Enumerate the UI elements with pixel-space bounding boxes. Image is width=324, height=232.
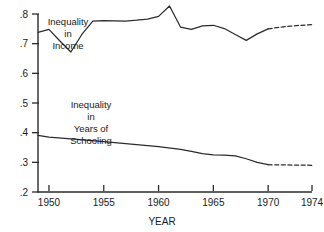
x-tick-label: 1970 bbox=[257, 197, 280, 208]
schooling-series-label: InequalityinYears ofSchooling bbox=[70, 99, 112, 146]
y-tick-label: .4 bbox=[20, 127, 29, 138]
series-label-line: Years of bbox=[74, 123, 109, 134]
x-axis-title: YEAR bbox=[148, 216, 175, 227]
series-path-projected bbox=[268, 165, 312, 166]
x-tick-label: 1974 bbox=[301, 197, 324, 208]
y-tick-label: .6 bbox=[20, 68, 29, 79]
series-label-line: Inequality bbox=[71, 99, 112, 110]
x-tick-label: 1960 bbox=[147, 197, 170, 208]
y-tick-label: .7 bbox=[20, 38, 29, 49]
x-tick-label: 1965 bbox=[202, 197, 225, 208]
y-tick-label: .3 bbox=[20, 157, 29, 168]
chart-figure: .2.3.4.5.6.7.8 195019551960196519701974 … bbox=[0, 0, 324, 232]
y-tick-label: .5 bbox=[20, 98, 29, 109]
series-label-line: in bbox=[87, 111, 94, 122]
series-label-line: in bbox=[64, 28, 71, 39]
y-tick-label: .2 bbox=[20, 187, 29, 198]
y-tick-label: .8 bbox=[20, 9, 29, 20]
x-tick-label: 1950 bbox=[38, 197, 61, 208]
series-label-line: Income bbox=[52, 40, 83, 51]
inequality-line-chart: .2.3.4.5.6.7.8 195019551960196519701974 … bbox=[0, 0, 324, 232]
series-label-line: Schooling bbox=[70, 135, 112, 146]
series-label-line: Inequality bbox=[48, 16, 89, 27]
x-tick-label: 1955 bbox=[93, 197, 116, 208]
